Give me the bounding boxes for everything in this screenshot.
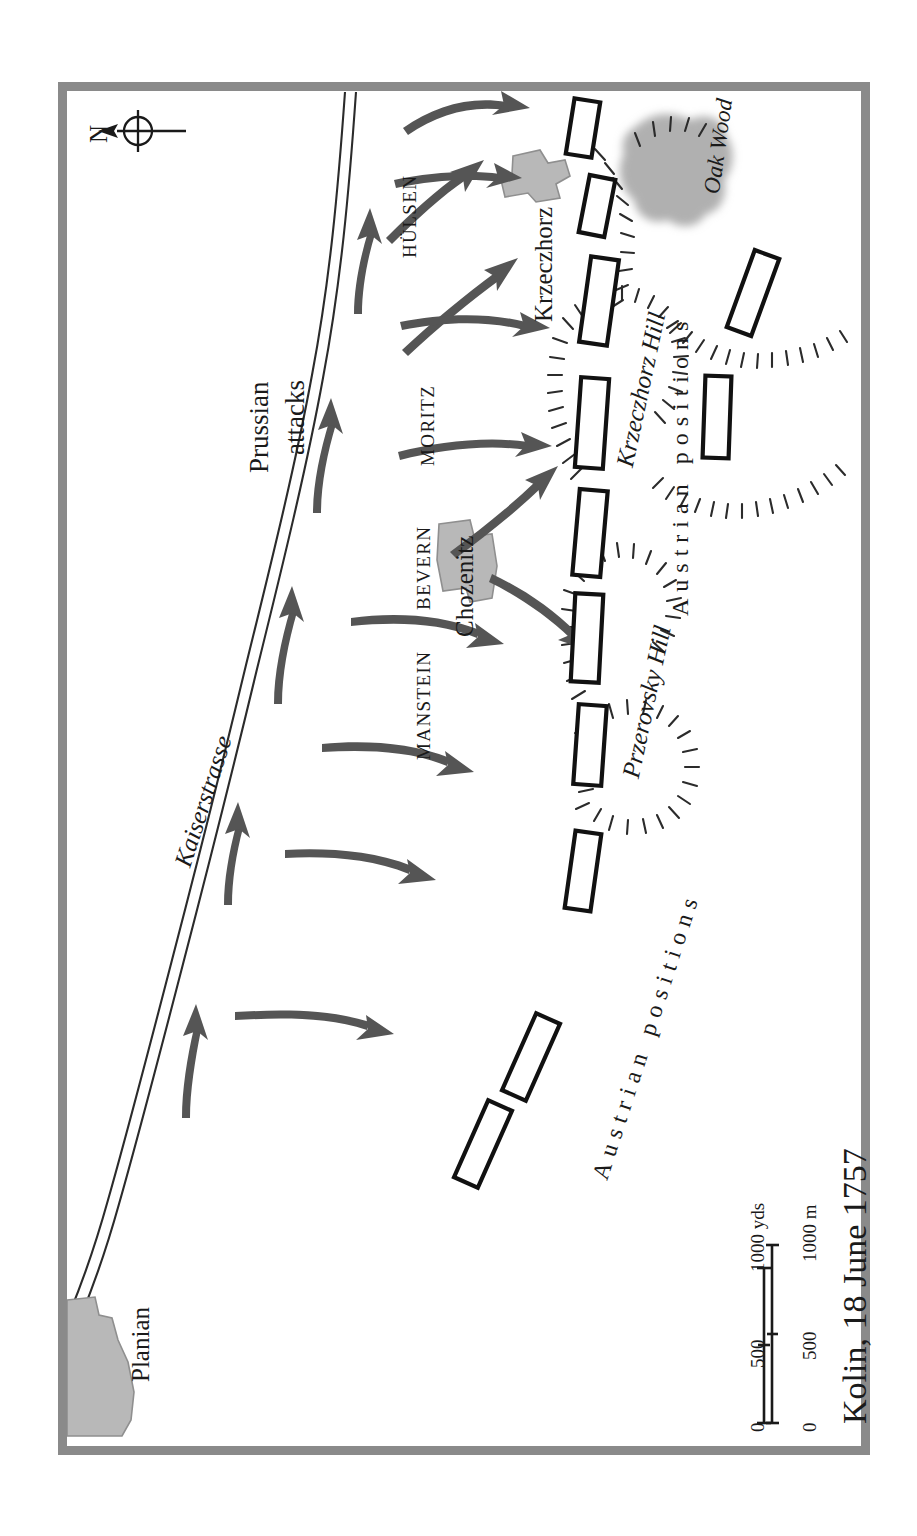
label-commander-manstein: MANSTEIN — [414, 651, 433, 760]
label-commander-bevern: BEVERN — [414, 526, 433, 610]
scale-label-metres-max: 1000 m — [800, 1204, 819, 1262]
label-krzeczhorz: Krzeczhorz — [531, 207, 556, 322]
scale-label-yards-zero: 0 — [748, 1423, 767, 1433]
battle-map: N Prussian attacks Kaiserstrasse Planian… — [0, 0, 917, 1536]
label-chozenitz: Chozenitz — [452, 536, 477, 637]
label-planian: Planian — [128, 1307, 153, 1382]
scale-label-metres-zero: 0 — [800, 1423, 819, 1433]
scale-label-yards-max: 1000 yds — [748, 1203, 767, 1272]
label-austrian-positions-north: Austrian positions — [668, 315, 692, 616]
map-title: Kolin, 18 June 1757 — [838, 1148, 872, 1424]
label-commander-hulsen: HÜLSEN — [400, 175, 419, 258]
scale-label-metres-mid: 500 — [800, 1332, 819, 1361]
compass-label-n: N — [86, 125, 111, 143]
label-commander-moritz: MORITZ — [418, 385, 437, 466]
scale-label-yards-mid: 500 — [748, 1340, 767, 1369]
label-prussian-attacks-line1: Prussian — [246, 381, 273, 473]
label-prussian-attacks-line2: attacks — [282, 380, 309, 455]
